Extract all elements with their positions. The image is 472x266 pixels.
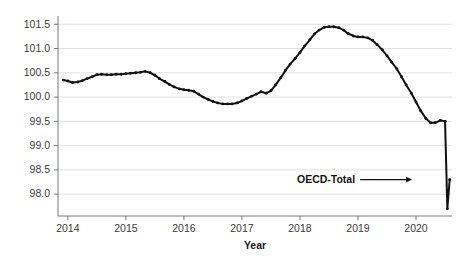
data-point — [390, 61, 393, 64]
data-point — [448, 178, 451, 181]
data-point — [313, 33, 316, 36]
data-point — [289, 63, 292, 66]
data-point — [100, 73, 103, 76]
data-point — [444, 120, 447, 123]
data-point — [446, 207, 449, 210]
data-point — [308, 38, 311, 41]
data-point — [202, 96, 205, 99]
y-tick-label: 99.0 — [30, 139, 51, 151]
data-point — [415, 100, 418, 103]
data-point — [250, 95, 253, 98]
data-point — [371, 39, 374, 42]
data-point — [386, 54, 389, 57]
data-point — [439, 119, 442, 122]
data-point — [134, 71, 137, 74]
data-point — [139, 71, 142, 74]
data-series — [62, 25, 451, 210]
y-tick-label: 99.5 — [30, 115, 51, 127]
y-axis-tick-labels: 98.098.599.099.5100.0100.5101.0101.5 — [24, 18, 50, 200]
data-point — [260, 90, 263, 93]
data-point — [62, 79, 65, 82]
x-tick-label: 2014 — [56, 222, 80, 234]
data-point — [265, 92, 268, 95]
data-point — [318, 29, 321, 32]
data-point — [395, 67, 398, 70]
data-point — [158, 77, 161, 80]
data-point — [236, 101, 239, 104]
data-point — [366, 36, 369, 39]
data-point — [95, 73, 98, 76]
data-point — [149, 71, 152, 74]
data-point — [381, 49, 384, 52]
data-point — [323, 26, 326, 29]
data-point — [303, 45, 306, 48]
data-point — [270, 89, 273, 92]
x-tick-label: 2017 — [230, 222, 254, 234]
data-point — [110, 73, 113, 76]
data-point — [91, 75, 94, 78]
x-axis-title: Year — [244, 239, 266, 251]
data-point — [76, 81, 79, 84]
annotation-arrow-icon — [406, 177, 412, 183]
y-tick-label: 101.0 — [24, 42, 50, 54]
data-point — [221, 102, 224, 105]
data-point — [211, 100, 214, 103]
y-tick-label: 101.5 — [24, 18, 50, 30]
data-point — [376, 43, 379, 46]
data-point — [81, 79, 84, 82]
data-point — [429, 121, 432, 124]
data-point — [115, 73, 118, 76]
data-point — [342, 29, 345, 32]
data-point — [299, 51, 302, 54]
data-point — [231, 102, 234, 105]
data-point — [153, 74, 156, 77]
data-point — [279, 76, 282, 79]
data-point — [405, 84, 408, 87]
data-point — [66, 80, 69, 83]
data-point — [197, 93, 200, 96]
data-point — [105, 73, 108, 76]
data-point — [168, 83, 171, 86]
data-point — [216, 101, 219, 104]
data-point — [245, 97, 248, 100]
data-point — [400, 75, 403, 78]
x-axis-tick-labels: 2014201520162017201820192020 — [56, 222, 428, 234]
data-point — [332, 25, 335, 28]
data-point — [357, 35, 360, 38]
y-tick-label: 98.5 — [30, 163, 51, 175]
data-point — [192, 90, 195, 93]
data-point — [187, 89, 190, 92]
x-tick-label: 2020 — [404, 222, 428, 234]
x-tick-label: 2019 — [346, 222, 370, 234]
data-point — [337, 26, 340, 29]
data-point — [124, 72, 127, 75]
data-point — [352, 34, 355, 37]
line-chart: 98.098.599.099.5100.0100.5101.0101.5 201… — [0, 0, 472, 266]
x-tick-label: 2015 — [114, 222, 138, 234]
data-point — [419, 109, 422, 112]
chart-container: 98.098.599.099.5100.0100.5101.0101.5 201… — [0, 0, 472, 266]
series-annotation-label: OECD-Total — [297, 173, 355, 185]
data-point — [207, 98, 210, 101]
data-point — [328, 25, 331, 28]
data-point — [178, 87, 181, 90]
data-point — [240, 100, 243, 103]
data-point — [86, 77, 89, 80]
data-point — [163, 80, 166, 83]
data-point — [255, 93, 258, 96]
data-point — [120, 73, 123, 76]
y-tick-label: 98.0 — [30, 187, 51, 199]
data-point — [226, 102, 229, 105]
data-point — [182, 88, 185, 91]
series-line-OECD-Total-covid — [445, 121, 450, 208]
data-point — [434, 121, 437, 124]
data-point — [410, 92, 413, 95]
data-point — [347, 32, 350, 35]
data-point — [129, 72, 132, 75]
series-annotation-group: OECD-Total — [297, 173, 412, 185]
data-point — [361, 35, 364, 38]
data-point — [71, 81, 74, 84]
x-tick-label: 2018 — [288, 222, 312, 234]
data-point — [424, 117, 427, 120]
data-point — [173, 85, 176, 88]
